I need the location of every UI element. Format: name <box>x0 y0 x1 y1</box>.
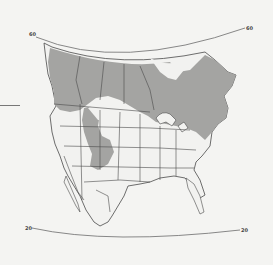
latitude-60-line <box>36 28 245 53</box>
latitude-label-top-left: 60 <box>29 31 36 37</box>
latitude-label-top-right: 60 <box>246 25 253 31</box>
latitude-20-line <box>32 228 240 237</box>
latitude-label-bottom-left: 20 <box>25 225 32 231</box>
north-america-range-map <box>0 0 273 265</box>
latitude-label-bottom-right: 20 <box>241 227 248 233</box>
leader-line <box>0 105 20 106</box>
